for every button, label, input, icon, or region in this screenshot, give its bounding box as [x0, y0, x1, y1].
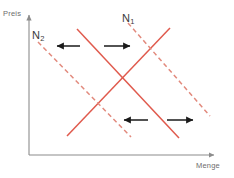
axis-group: [29, 15, 214, 155]
x-axis-label: Menge: [196, 161, 220, 170]
y-axis-label: Preis: [3, 9, 21, 18]
plot-canvas: [0, 0, 234, 178]
curve-label-n1-subscript: 1: [130, 17, 134, 26]
curve-label-n2-subscript: 2: [40, 34, 44, 43]
curve-label-n2-base: N: [32, 29, 40, 41]
curve-label-n1-base: N: [122, 12, 130, 24]
price-quantity-diagram: Preis Menge N2 N1: [0, 0, 234, 178]
curve-label-n1: N1: [122, 12, 134, 24]
supply-solid-curve: [67, 28, 170, 136]
demand-n1-dashed-curve: [128, 23, 210, 116]
demand-n2-dashed-curve: [38, 42, 131, 137]
curve-label-n2: N2: [32, 29, 44, 41]
